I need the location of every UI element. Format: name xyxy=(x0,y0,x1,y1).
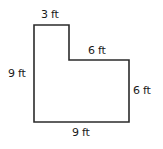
l-shape-outline xyxy=(34,25,129,122)
label-inner-horizontal: 6 ft xyxy=(88,45,106,57)
label-right: 6 ft xyxy=(133,85,151,97)
label-left: 9 ft xyxy=(8,68,26,80)
label-bottom: 9 ft xyxy=(72,127,90,139)
label-top: 3 ft xyxy=(41,9,59,21)
